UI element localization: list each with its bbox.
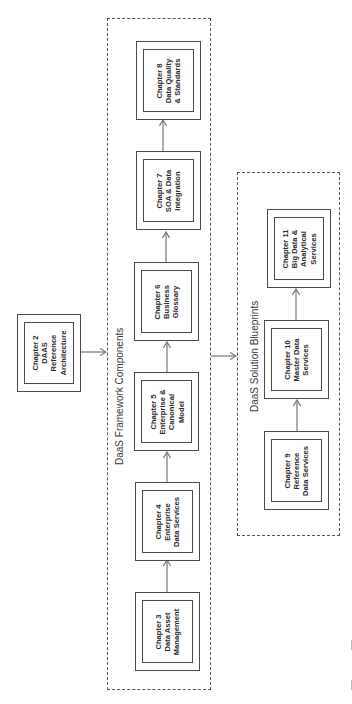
chapter-7-box: Chapter 7 SOA & Data Integration (136, 151, 201, 230)
label-line: Reference (49, 322, 58, 384)
label-line: Chapter 6 (153, 271, 162, 333)
chapter-8-label: Chapter 8 Data Quality & Standards (155, 50, 183, 112)
label-line: Services (308, 218, 317, 280)
label-line: Services (301, 329, 310, 391)
label-line: Canonical (167, 381, 176, 443)
label-line: Glossary (171, 271, 180, 333)
label-line: Big Data & (290, 218, 299, 280)
label-line: Management (172, 601, 181, 663)
label-line: Chapter 8 (155, 50, 164, 112)
label-line: Data Services (172, 491, 181, 553)
chapter-3-box: Chapter 3 Data Asset Management (135, 592, 200, 671)
chapter-6-label: Chapter 6 Business Glossary (153, 271, 181, 333)
label-line: Enterprise (163, 491, 172, 553)
chapter-10-box: Chapter 10 Master Data Services (264, 320, 329, 399)
chapter-9-box: Chapter 9 Reference Data Services (264, 431, 329, 510)
label-line: Chapter 4 (154, 491, 163, 553)
chapter-11-label: Chapter 11 Big Data & Analytical Service… (281, 218, 318, 280)
label-line: Reference (292, 440, 301, 502)
label-line: Analytical (299, 218, 308, 280)
chapter-5-label: Chapter 5 Enterprise & Canonical Model (148, 381, 185, 443)
label-line: Model (176, 381, 185, 443)
label-line: Chapter 5 (148, 381, 157, 443)
chapter-4-label: Chapter 4 Enterprise Data Services (154, 491, 182, 553)
chapter-9-label: Chapter 9 Reference Data Services (283, 440, 311, 502)
label-line: Chapter 2 (31, 322, 40, 384)
chapter-3-label: Chapter 3 Data Asset Management (154, 601, 182, 663)
chapter-6-box: Chapter 6 Business Glossary (134, 262, 199, 341)
label-line: & Standards (173, 50, 182, 112)
label-line: Data Quality (164, 50, 173, 112)
chapter-2-label: Chapter 2 DAAS Reference Architecture (31, 322, 68, 384)
label-line: Architecture (58, 322, 67, 384)
label-line: Data Services (301, 440, 310, 502)
label-line: Chapter 9 (283, 440, 292, 502)
label-line: Master Data (292, 329, 301, 391)
label-line: Business (162, 271, 171, 333)
chapter-4-box: Chapter 4 Enterprise Data Services (135, 482, 200, 561)
chapter-7-label: Chapter 7 SOA & Data Integration (155, 160, 183, 222)
label-line: SOA & Data (164, 160, 173, 222)
chapter-5-box: Chapter 5 Enterprise & Canonical Model (134, 372, 199, 451)
chapter-11-box: Chapter 11 Big Data & Analytical Service… (267, 209, 331, 288)
label-line: Chapter 11 (281, 218, 290, 280)
label-line: Chapter 3 (154, 601, 163, 663)
label-line: DAAS (40, 322, 49, 384)
label-line: Chapter 10 (283, 329, 292, 391)
label-line: Chapter 7 (155, 160, 164, 222)
label-line: Integration (173, 160, 182, 222)
chapter-2-box: Chapter 2 DAAS Reference Architecture (17, 314, 81, 392)
chapter-10-label: Chapter 10 Master Data Services (283, 329, 311, 391)
label-line: Enterprise & (157, 381, 166, 443)
chapter-8-box: Chapter 8 Data Quality & Standards (136, 41, 201, 120)
label-line: Data Asset (163, 601, 172, 663)
